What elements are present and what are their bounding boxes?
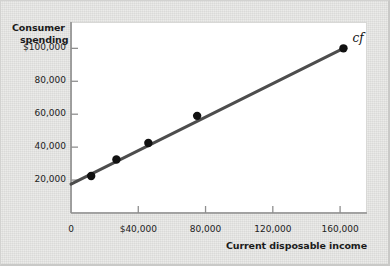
axis-lines: [71, 22, 367, 213]
data-point: [339, 44, 347, 52]
data-point: [193, 112, 201, 120]
data-point: [144, 139, 152, 147]
data-point: [112, 155, 120, 163]
chart-figure: Consumer spending Current disposable inc…: [0, 0, 390, 266]
x-axis-ticks: [138, 206, 340, 213]
chart-canvas: [0, 0, 390, 266]
data-point: [87, 172, 95, 180]
y-axis-ticks: [71, 48, 78, 180]
consumption-function-line: [71, 48, 343, 184]
